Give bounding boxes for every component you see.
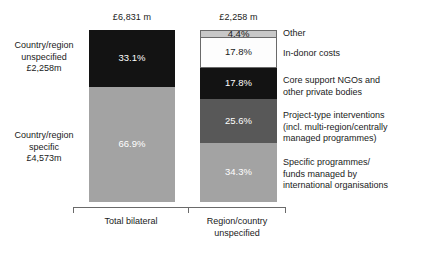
segment-value-other: 4.4% xyxy=(228,30,250,38)
legend-core-support-line1: Core support NGOs and xyxy=(283,75,380,87)
annotation-specific-line2: specific xyxy=(2,142,86,154)
annotation-specific-amount: £4,573m xyxy=(2,153,86,165)
annotation-unspecified-line1: Country/region xyxy=(2,40,86,52)
legend-item-project-type-interventions: Project-type interventions (incl. multi-… xyxy=(283,110,388,145)
segment-core-support-ngos: 17.8% xyxy=(200,68,277,99)
segment-value-in-donor-costs: 17.8% xyxy=(225,47,252,57)
segment-other: 4.4% xyxy=(200,30,277,38)
legend-core-support-line2: other private bodies xyxy=(283,87,380,99)
stacked-bar-chart: £6,831 m £2,258 m Country/region unspeci… xyxy=(0,0,422,259)
legend-other-line1: Other xyxy=(283,28,306,40)
legend-specific-programmes-line3: international organisations xyxy=(283,180,388,192)
legend-specific-programmes-line1: Specific programmes/ xyxy=(283,157,388,169)
annotation-country-region-unspecified: Country/region unspecified £2,258m xyxy=(2,40,86,75)
legend-project-type-line1: Project-type interventions xyxy=(283,110,388,122)
legend-specific-programmes-line2: funds managed by xyxy=(283,169,388,181)
axis-region-unspecified-line2: unspecified xyxy=(189,228,285,240)
segment-value-unspecified: 33.1% xyxy=(119,53,146,63)
legend-item-other: Other xyxy=(283,28,306,40)
segment-value-specific-programmes: 34.3% xyxy=(225,167,252,177)
x-axis-line xyxy=(73,207,285,208)
segment-in-donor-costs: 17.8% xyxy=(200,38,277,69)
legend-item-specific-programmes: Specific programmes/ funds managed by in… xyxy=(283,157,388,192)
segment-country-region-unspecified: 33.1% xyxy=(89,30,175,87)
axis-total-bilateral-line1: Total bilateral xyxy=(74,216,188,228)
segment-project-type-interventions: 25.6% xyxy=(200,99,277,143)
x-axis-label-total-bilateral: Total bilateral xyxy=(74,216,188,228)
segment-specific-programmes: 34.3% xyxy=(200,143,277,202)
bar-total-bilateral: 33.1% 66.9% xyxy=(89,30,175,202)
region-unspecified-amount-label: £2,258 m xyxy=(200,12,277,22)
annotation-specific-line1: Country/region xyxy=(2,130,86,142)
x-axis-tick-right xyxy=(285,207,286,213)
x-axis-tick-left xyxy=(73,207,74,213)
segment-country-region-specific: 66.9% xyxy=(89,87,175,202)
axis-region-unspecified-line1: Region/country xyxy=(189,216,285,228)
legend-project-type-line2: (incl. multi-region/centrally xyxy=(283,122,388,134)
legend-project-type-line3: managed programmes) xyxy=(283,133,388,145)
bar-region-country-unspecified: 4.4% 17.8% 17.8% 25.6% 34.3% xyxy=(200,30,277,202)
x-axis-label-region-country-unspecified: Region/country unspecified xyxy=(189,216,285,239)
total-bilateral-amount-label: £6,831 m xyxy=(89,12,175,22)
legend-in-donor-costs-line1: In-donor costs xyxy=(283,48,340,60)
x-axis-tick-middle xyxy=(188,207,189,213)
legend-item-in-donor-costs: In-donor costs xyxy=(283,48,340,60)
segment-value-specific: 66.9% xyxy=(119,139,146,149)
segment-value-project-type: 25.6% xyxy=(225,116,252,126)
segment-value-core-support-ngos: 17.8% xyxy=(225,78,252,88)
annotation-country-region-specific: Country/region specific £4,573m xyxy=(2,130,86,165)
annotation-unspecified-amount: £2,258m xyxy=(2,63,86,75)
annotation-unspecified-line2: unspecified xyxy=(2,52,86,64)
legend-item-core-support-ngos: Core support NGOs and other private bodi… xyxy=(283,75,380,98)
